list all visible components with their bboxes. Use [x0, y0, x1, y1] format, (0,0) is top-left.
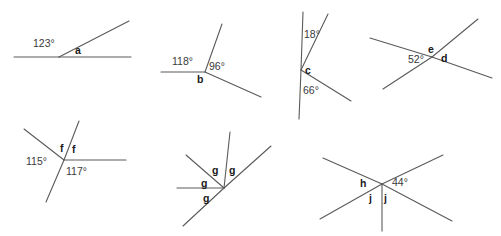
- crossing-lines-with-ray-vertex-hj-angle-j-right: j: [383, 192, 387, 204]
- crossing-lines-with-ray-vertex-hj-line-1-lower-right: [382, 184, 452, 221]
- vertical-line-two-rays-vertex-c: 18°c66°: [299, 12, 351, 119]
- vertical-line-two-rays-vertex-c-angle-18: 18°: [304, 28, 320, 40]
- three-rays-vertex-b: 118°96°b: [161, 24, 261, 97]
- vertical-line-two-rays-vertex-c-ray-up-right: [301, 14, 328, 70]
- five-rays-vertex-g-angle-g-upper-left: g: [212, 164, 218, 176]
- crossing-lines-vertex-ed-angle-e: e: [428, 43, 434, 55]
- vertical-line-two-rays-vertex-c-angle-c: c: [305, 64, 311, 76]
- four-rays-vertex-f: ff115°117°: [24, 121, 126, 202]
- five-rays-vertex-g-angle-g-upper-right: g: [229, 164, 235, 176]
- vertical-line-two-rays-vertex-c-angle-66: 66°: [303, 84, 319, 96]
- crossing-lines-vertex-ed: 52°ed: [370, 19, 492, 89]
- straight-line-with-ray: 123°a: [14, 21, 131, 57]
- crossing-lines-with-ray-vertex-hj-angle-h: h: [360, 177, 366, 189]
- worksheet-canvas: 123°a118°96°b18°c66°52°edff115°117°ggggh…: [0, 0, 501, 236]
- four-rays-vertex-f-angle-117: 117°: [66, 165, 87, 177]
- crossing-lines-with-ray-vertex-hj-line-2-lower-left: [320, 184, 382, 219]
- crossing-lines-vertex-ed-angle-52: 52°: [408, 53, 424, 65]
- five-rays-vertex-g-angle-g-left: g: [201, 177, 207, 189]
- three-rays-vertex-b-angle-96: 96°: [209, 60, 225, 72]
- four-rays-vertex-f-angle-f-right: f: [72, 143, 76, 155]
- vertical-line-two-rays-vertex-c-ray-down: [299, 70, 301, 119]
- four-rays-vertex-f-ray-down-left-steep: [46, 160, 64, 202]
- crossing-lines-with-ray-vertex-hj-angle-44: 44°: [392, 176, 408, 188]
- five-rays-vertex-g-angle-g-lower: g: [203, 192, 209, 204]
- straight-line-with-ray-angle-123: 123°: [33, 37, 55, 49]
- straight-line-with-ray-ray-up-right: [59, 21, 129, 57]
- three-rays-vertex-b-angle-b: b: [197, 73, 203, 85]
- crossing-lines-with-ray-vertex-hj-line-1-upper-left: [323, 158, 382, 184]
- crossing-lines-vertex-ed-line-2-upper-right: [432, 19, 478, 57]
- crossing-lines-vertex-ed-angle-d: d: [441, 52, 447, 64]
- straight-line-with-ray-angle-a: a: [75, 44, 81, 56]
- three-rays-vertex-b-angle-118: 118°: [172, 55, 193, 67]
- angle-diagrams-worksheet: 123°a118°96°b18°c66°52°edff115°117°ggggh…: [0, 0, 501, 236]
- five-rays-vertex-g: gggg: [177, 132, 271, 226]
- crossing-lines-with-ray-vertex-hj-angle-j-left: j: [368, 192, 372, 204]
- four-rays-vertex-f-angle-115: 115°: [26, 155, 47, 167]
- five-rays-vertex-g-ray-up-steep: [224, 132, 230, 188]
- crossing-lines-with-ray-vertex-hj: h44°jj: [320, 155, 452, 231]
- vertical-line-two-rays-vertex-c-ray-up: [301, 12, 303, 70]
- three-rays-vertex-b-ray-down-right: [205, 72, 261, 97]
- four-rays-vertex-f-angle-f-left: f: [60, 142, 64, 154]
